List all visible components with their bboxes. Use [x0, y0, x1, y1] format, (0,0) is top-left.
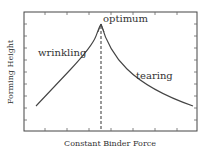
x-axis-label: Constant Binder Force	[64, 139, 156, 148]
optimum-label: optimum	[103, 13, 149, 24]
tearing-label: tearing	[136, 70, 173, 81]
wrinkling-label: wrinkling	[38, 47, 87, 58]
y-axis-label: Forming Height	[6, 39, 15, 104]
tearing-curve	[101, 24, 193, 106]
forming-height-chart: wrinkling optimum tearing Constant Binde…	[0, 0, 206, 153]
wrinkling-curve	[36, 24, 101, 106]
